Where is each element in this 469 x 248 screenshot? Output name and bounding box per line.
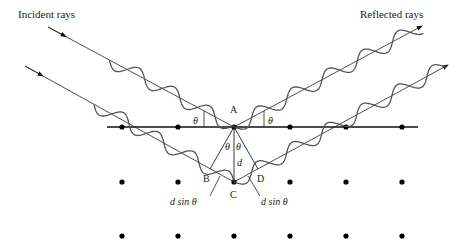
theta-right-label: θ [268, 115, 273, 126]
wave [234, 30, 423, 129]
lattice-atom [175, 233, 180, 238]
wave [234, 65, 446, 184]
spacing-d-label: d [237, 157, 243, 168]
lattice-atom [231, 233, 236, 238]
upper-incident-arrow-icon [48, 27, 64, 36]
lattice-atom [287, 233, 292, 238]
point-B-label: B [203, 173, 210, 184]
lattice-atom [399, 124, 404, 129]
theta-left-label: θ [193, 115, 198, 126]
incident-rays-label: Incident rays [18, 8, 75, 20]
lattice-atom [287, 124, 292, 129]
lattice-atom [343, 233, 348, 238]
lattice-atom [175, 179, 180, 184]
lower-incident-arrow-icon [25, 66, 41, 75]
lattice-atom [399, 179, 404, 184]
dsin-left-label: d sin θ [170, 196, 197, 207]
lattice-atom [399, 233, 404, 238]
lattice-atom [287, 179, 292, 184]
theta-inner-right-label: θ [236, 141, 241, 152]
bragg-diffraction-diagram: Incident rays Reflected rays A B C D d θ… [0, 0, 469, 248]
theta-inner-left-label: θ [225, 141, 230, 152]
reflected-rays-label: Reflected rays [360, 8, 423, 20]
dsin-right-label: d sin θ [261, 196, 288, 207]
diagram-canvas: Incident rays Reflected rays A B C D d θ… [0, 0, 469, 248]
wave-paths [94, 30, 446, 184]
lattice-atom [343, 179, 348, 184]
point-D-label: D [257, 173, 264, 184]
point-C-label: C [230, 189, 237, 200]
lattice-atom [119, 233, 124, 238]
point-A-label: A [230, 104, 238, 115]
lattice-atom [119, 124, 124, 129]
line-AB [210, 127, 234, 169]
upper-incident-ray [48, 27, 234, 127]
lattice-atom [119, 179, 124, 184]
leader-dsin-left [210, 176, 220, 196]
lattice-atom [175, 124, 180, 129]
